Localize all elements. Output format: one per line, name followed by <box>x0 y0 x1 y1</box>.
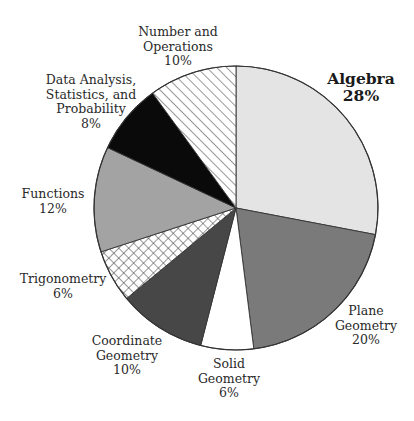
slice-label-text: Geometry <box>198 372 260 387</box>
slice-percent: 6% <box>20 287 107 302</box>
slice-label-text: Geometry <box>335 319 397 334</box>
slice-label-text: Geometry <box>92 349 163 364</box>
slice-label-number-and-operations: Number andOperations10% <box>138 25 218 69</box>
slice-label-trigonometry: Trigonometry6% <box>20 272 107 301</box>
slice-label-coordinate-geometry: CoordinateGeometry10% <box>92 334 163 378</box>
slice-percent: 10% <box>138 54 218 69</box>
slice-label-text: Solid <box>198 357 260 372</box>
pie-chart: Algebra28%PlaneGeometry20%SolidGeometry6… <box>0 0 414 421</box>
slice-percent: 6% <box>198 386 260 401</box>
slice-percent: 12% <box>22 202 85 217</box>
slice-label-text: Probability <box>46 102 136 117</box>
slice-label-text: Plane <box>335 304 397 319</box>
slice-label-algebra: Algebra28% <box>327 70 395 104</box>
slice-percent: 10% <box>92 363 163 378</box>
slice-label-text: Algebra <box>327 70 395 87</box>
slice-label-solid-geometry: SolidGeometry6% <box>198 357 260 401</box>
slice-label-text: Functions <box>22 187 85 202</box>
slice-label-text: Operations <box>138 40 218 55</box>
slice-label-text: Trigonometry <box>20 272 107 287</box>
slice-label-data-analysis-statistics-and-probability: Data Analysis,Statistics, andProbability… <box>46 73 136 131</box>
slice-label-text: Coordinate <box>92 334 163 349</box>
slice-label-text: Data Analysis, <box>46 73 136 88</box>
slice-label-text: Number and <box>138 25 218 40</box>
slice-percent: 8% <box>46 117 136 132</box>
slice-percent: 28% <box>327 87 395 104</box>
slice-label-plane-geometry: PlaneGeometry20% <box>335 304 397 348</box>
slice-label-functions: Functions12% <box>22 187 85 216</box>
slice-percent: 20% <box>335 333 397 348</box>
slice-label-text: Statistics, and <box>46 88 136 103</box>
